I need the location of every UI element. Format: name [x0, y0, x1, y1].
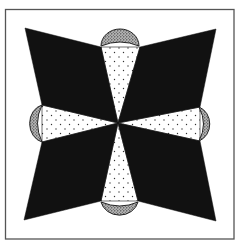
- quilt-block-diagram: [0, 0, 238, 245]
